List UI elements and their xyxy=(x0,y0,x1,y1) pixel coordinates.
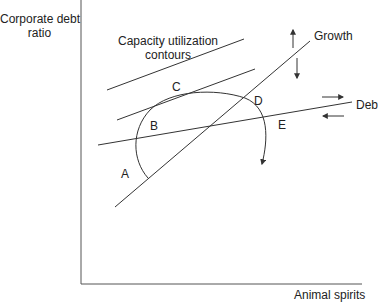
y-axis-label-line1: Corporate debt xyxy=(0,12,79,26)
point-a-label: A xyxy=(121,167,129,181)
debt-label: Deb xyxy=(356,98,378,112)
y-axis-label-line2: ratio xyxy=(0,26,79,40)
contours-label-line1: Capacity utilization xyxy=(108,34,228,48)
point-b-label: B xyxy=(150,119,158,133)
y-axis-label: Corporate debt ratio xyxy=(0,12,79,40)
contours-label-line2: contours xyxy=(108,48,228,62)
point-e-label: E xyxy=(278,118,286,132)
growth-label: Growth xyxy=(314,29,353,43)
x-axis-label: Animal spirits xyxy=(294,288,365,302)
point-c-label: C xyxy=(172,80,181,94)
point-d-label: D xyxy=(254,94,263,108)
contours-label: Capacity utilization contours xyxy=(108,34,228,62)
